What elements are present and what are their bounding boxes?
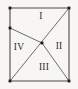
vertex-dot-bottom-left [9, 80, 12, 83]
region-label-IV: IV [14, 42, 24, 52]
segment-cevian-left-to-interior [10, 28, 42, 43]
region-label-II: II [56, 41, 63, 51]
vertex-dot-interior-point [41, 42, 44, 45]
vertex-dot-top-right [68, 7, 71, 10]
vertex-dot-left-edge-point [9, 27, 12, 30]
region-label-I: I [39, 11, 42, 21]
vertex-dot-bottom-right [68, 80, 71, 83]
geometry-figure: IIIIIIIV [0, 0, 78, 89]
region-label-III: III [39, 62, 49, 72]
figure-canvas: IIIIIIIV [0, 0, 78, 89]
vertex-dot-top-left [9, 7, 12, 10]
